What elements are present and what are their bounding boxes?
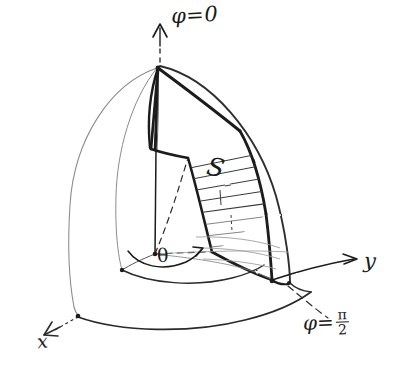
fraction-numerator: π bbox=[335, 307, 349, 322]
x-axis bbox=[44, 317, 78, 336]
vertical-axis bbox=[153, 24, 167, 62]
label-angle-theta: θ bbox=[157, 244, 169, 266]
label-phi-equals-pi-over-two: φ=π2 bbox=[302, 308, 349, 339]
figure-root: φ=0 φ=π2 y x θ S bbox=[0, 0, 395, 378]
patch-hatching bbox=[180, 150, 289, 259]
sphere-right-limb bbox=[160, 66, 311, 292]
label-phi-equals-zero: φ=0 bbox=[170, 2, 218, 28]
phi-half-pi-lhs: φ= bbox=[303, 310, 335, 335]
pi-over-two-fraction: π2 bbox=[335, 307, 349, 337]
label-axis-x: x bbox=[36, 330, 49, 353]
equator-rim bbox=[78, 265, 311, 329]
label-axis-y: y bbox=[363, 249, 377, 274]
y-axis bbox=[272, 254, 357, 280]
fraction-denominator: 2 bbox=[336, 321, 349, 337]
